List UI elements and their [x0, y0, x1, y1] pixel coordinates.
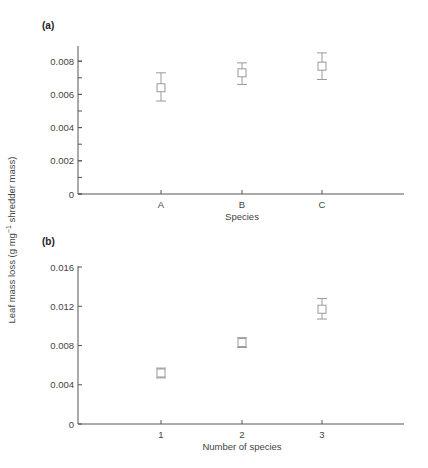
y-tick-label: 0.002	[50, 155, 74, 166]
x-tick-label: A	[158, 199, 165, 210]
data-point	[317, 53, 327, 80]
y-tick-label: 0.016	[50, 262, 74, 273]
square-marker	[157, 369, 165, 377]
y-tick-label: 0.006	[50, 89, 74, 100]
panel-label: (a)	[42, 20, 54, 31]
y-tick-label: 0.008	[50, 340, 74, 351]
y-tick-label: 0	[69, 419, 74, 430]
data-point	[156, 73, 166, 101]
data-point	[237, 63, 247, 85]
square-marker	[238, 339, 246, 347]
x-tick-label: 3	[319, 429, 324, 440]
y-tick-label: 0.004	[50, 379, 74, 390]
x-tick-label: 2	[239, 429, 244, 440]
figure: (a)00.0020.0040.0060.008ABCSpecies(b)00.…	[0, 0, 428, 468]
x-axis-title: Number of species	[202, 441, 281, 452]
x-tick-label: C	[319, 199, 326, 210]
y-tick-label: 0.004	[50, 122, 74, 133]
panel-label: (b)	[42, 236, 55, 247]
x-tick-label: 1	[158, 429, 163, 440]
y-tick-label: 0	[69, 189, 74, 200]
data-point	[237, 338, 247, 348]
data-point	[317, 298, 327, 319]
data-point	[156, 368, 166, 378]
square-marker	[157, 84, 165, 92]
panel-a: (a)00.0020.0040.0060.008ABCSpecies	[42, 20, 404, 222]
square-marker	[318, 305, 326, 313]
y-axis-title: Leaf mass loss (g mg−1 shredder mass)	[5, 157, 17, 324]
x-tick-label: B	[239, 199, 245, 210]
panel-b: (b)00.0040.0080.0120.016123Number of spe…	[42, 236, 404, 452]
y-tick-label: 0.012	[50, 301, 74, 312]
square-marker	[238, 69, 246, 77]
x-axis-title: Species	[225, 211, 259, 222]
y-tick-label: 0.008	[50, 56, 74, 67]
square-marker	[318, 62, 326, 70]
